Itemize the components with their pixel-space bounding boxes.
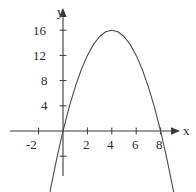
y-tick-label-16: 16	[33, 24, 46, 37]
y-tick-label-8: 8	[41, 74, 48, 87]
x-tick-label--2: -2	[26, 138, 37, 151]
y-tick-label-12: 12	[33, 49, 46, 62]
x-tick-label-4: 4	[107, 138, 114, 151]
parabola-curve	[45, 30, 177, 192]
parabola-graph-figure: -2 2 4 6 8 16 12 8 4 y x	[0, 0, 196, 192]
x-axis-label: x	[183, 124, 190, 137]
plot-canvas	[0, 0, 196, 192]
x-tick-label-8: 8	[156, 138, 163, 151]
x-tick-label-2: 2	[83, 138, 90, 151]
x-tick-label-6: 6	[132, 138, 139, 151]
y-tick-label-4: 4	[41, 99, 48, 112]
y-axis-label: y	[57, 5, 64, 18]
x-axis-arrow-icon	[171, 127, 180, 134]
